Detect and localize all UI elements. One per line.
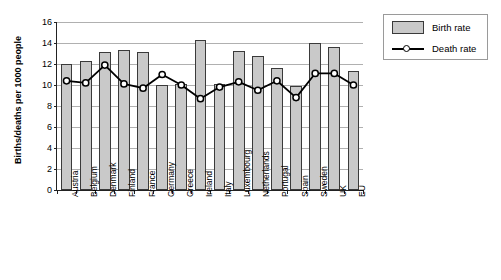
x-tick-label: Greece [185,169,195,197]
plot-area: 0246810121416 Austria: 10.4Belgium: 10.2… [56,22,363,191]
x-tick-label: Luxembourg [242,150,252,197]
legend-item-birth-rate: Birth rate [384,17,487,38]
data-point-marker: Spain: 8.8 [293,95,299,101]
y-axis-title: Births/deaths per 1000 people [13,5,23,195]
plot-inner: 0246810121416 Austria: 10.4Belgium: 10.2… [57,22,363,190]
y-tick-label: 16 [42,17,52,27]
data-point-marker: Austria: 10.4 [63,78,69,84]
y-tick-label: 12 [42,59,52,69]
births-deaths-chart: Births/deaths per 1000 people 0246810121… [0,0,501,280]
x-tick-label: Portugal [280,165,290,197]
x-tick-label: Belgium [89,166,99,197]
x-tick-label: Germany [166,162,176,197]
data-point-marker: Belgium: 10.2 [83,80,89,86]
data-point-marker: Sweden: 11.1 [312,70,318,76]
legend-swatch-bar-icon [392,21,424,34]
y-tick-label: 6 [47,122,52,132]
legend-item-death-rate: Death rate [384,38,487,59]
line-series-death-rate: Austria: 10.4Belgium: 10.2Denmark: 11.9F… [57,22,363,190]
x-tick-label: Ireland [204,171,214,197]
x-tick-label: Sweden [319,166,329,197]
x-tick-label: Spain [300,175,310,197]
x-tick-label: Netherlands [261,151,271,197]
data-point-marker: Denmark: 11.9 [102,62,108,68]
data-point-marker: EU: 10 [350,82,356,88]
legend-circle-marker-icon [403,45,410,52]
chart-legend: Birth rate Death rate [383,14,488,60]
data-point-marker: Germany: 11 [159,71,165,77]
y-tick-label: 0 [47,185,52,195]
data-point-marker: Ireland: 8.7 [197,96,203,102]
x-tick-label: UK [338,185,348,197]
x-tick-label: France [147,171,157,197]
y-tick-label: 8 [47,101,52,111]
data-point-marker: Netherlands: 9.5 [255,87,261,93]
x-tick-mark [57,190,58,194]
legend-swatch-line-icon [392,42,424,55]
data-point-marker: Portugal: 10.4 [274,78,280,84]
x-tick-label: Denmark [108,163,118,197]
y-tick-label: 10 [42,80,52,90]
y-tick-label: 4 [47,143,52,153]
y-tick-label: 2 [47,164,52,174]
death-rate-line [67,65,354,99]
data-point-marker: France: 9.7 [140,85,146,91]
legend-label-death-rate: Death rate [432,43,476,54]
data-point-marker: UK: 11.1 [331,70,337,76]
data-point-marker: Luxembourg: 10.3 [236,79,242,85]
data-point-marker: Finland: 10.1 [121,81,127,87]
x-tick-label: Finland [127,169,137,197]
legend-label-birth-rate: Birth rate [432,22,471,33]
y-tick-label: 14 [42,38,52,48]
x-tick-label: EU [357,185,367,197]
data-point-marker: Greece: 10 [178,82,184,88]
x-tick-label: Italy [223,181,233,197]
data-point-marker: Italy: 9.8 [216,84,222,90]
x-tick-label: Austria [70,171,80,197]
